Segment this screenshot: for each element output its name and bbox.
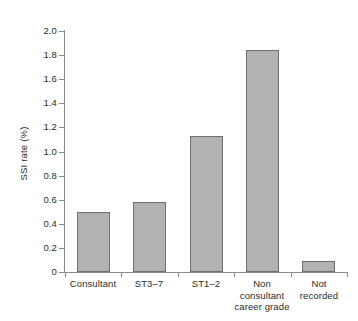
x-axis-label-line: recorded bbox=[283, 290, 355, 302]
bar bbox=[190, 136, 223, 272]
y-axis-tick-label: 2.0 bbox=[17, 26, 57, 36]
x-axis-tick bbox=[178, 272, 179, 277]
y-axis-tick-label: 0.6 bbox=[17, 195, 57, 205]
bar bbox=[302, 261, 335, 272]
x-axis-category-labels: ConsultantST3–7ST1–2Nonconsultantcareer … bbox=[65, 278, 347, 321]
x-axis-category-label: Notrecorded bbox=[283, 278, 355, 301]
y-axis-tick-label: 0.4 bbox=[17, 219, 57, 229]
y-axis-tick-label: 0.2 bbox=[17, 243, 57, 253]
y-axis-tick-label: 0 bbox=[17, 267, 57, 277]
y-axis-tick-label: 1.2 bbox=[17, 122, 57, 132]
x-axis-label-line: career grade bbox=[226, 301, 298, 313]
y-axis-tick-label: 1.4 bbox=[17, 98, 57, 108]
x-axis-tick bbox=[291, 272, 292, 277]
y-axis-tick-label: 1.0 bbox=[17, 147, 57, 157]
x-axis-tick bbox=[65, 272, 66, 277]
y-axis-tick-labels: 00.20.40.60.81.01.21.41.61.82.0 bbox=[12, 0, 57, 321]
bar bbox=[246, 50, 279, 272]
bar bbox=[133, 202, 166, 272]
x-axis-tick bbox=[121, 272, 122, 277]
x-axis-tick bbox=[234, 272, 235, 277]
y-axis-tick-label: 1.8 bbox=[17, 50, 57, 60]
x-axis-label-line: Not bbox=[283, 278, 355, 290]
bars-layer bbox=[65, 31, 347, 272]
bar bbox=[77, 212, 110, 272]
y-axis-tick-label: 0.8 bbox=[17, 171, 57, 181]
x-axis-line bbox=[64, 272, 347, 273]
y-axis-tick-label: 1.6 bbox=[17, 74, 57, 84]
bar-chart-figure: SSI rate (%) 00.20.40.60.81.01.21.41.61.… bbox=[0, 0, 358, 321]
x-axis-tick bbox=[347, 272, 348, 277]
